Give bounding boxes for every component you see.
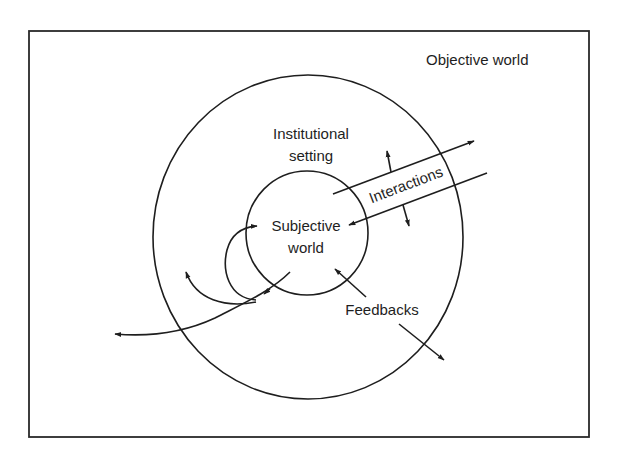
feedback-outward-arrow (399, 324, 444, 360)
subjective-world-label-line1: Subjective (271, 217, 340, 234)
outward-long-curve-arrow (115, 272, 290, 335)
interactions-label: Interactions (367, 163, 445, 207)
diagram-canvas: Objective world Institutional setting Su… (0, 0, 620, 456)
institutional-setting-label-line1: Institutional (273, 125, 349, 142)
objective-world-frame (29, 31, 589, 437)
interactions-up-arrow (387, 151, 391, 172)
objective-world-label: Objective world (426, 51, 529, 68)
self-loop-arrow (225, 226, 257, 300)
institutional-setting-label-line2: setting (289, 147, 333, 164)
interactions-down-arrow (403, 205, 409, 226)
feedbacks-label: Feedbacks (345, 301, 418, 318)
institutional-setting-ellipse (153, 75, 463, 399)
short-curve-arrow (186, 272, 256, 304)
subjective-world-label-line2: world (287, 239, 324, 256)
feedback-inward-arrow (335, 269, 366, 297)
